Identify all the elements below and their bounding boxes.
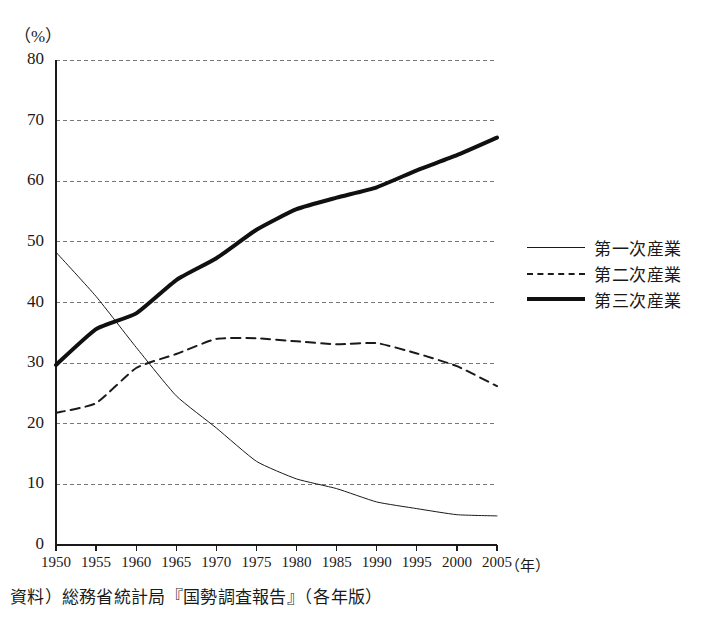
chart-legend: 第一次産業 第二次産業 第三次産業 bbox=[527, 234, 712, 312]
y-axis-tick-label: 40 bbox=[0, 292, 44, 312]
x-axis-tick-label: 1985 bbox=[315, 554, 359, 571]
y-axis-tick-label: 70 bbox=[0, 110, 44, 130]
legend-item-tertiary: 第三次産業 bbox=[527, 286, 712, 312]
series-line-1 bbox=[56, 252, 497, 516]
x-axis-unit-label: （年） bbox=[505, 554, 550, 575]
y-axis-tick-label: 30 bbox=[0, 352, 44, 372]
source-note: 資料）総務省統計局『国勢調査報告』（各年版） bbox=[10, 583, 383, 608]
chart-plot-area bbox=[0, 0, 717, 626]
series-line-3 bbox=[56, 138, 497, 365]
y-axis-tick-label: 10 bbox=[0, 473, 44, 493]
x-axis-tick-label: 1995 bbox=[395, 554, 439, 571]
legend-label-secondary: 第二次産業 bbox=[585, 261, 682, 286]
series-line-2 bbox=[56, 338, 497, 413]
x-axis-tick-label: 1975 bbox=[234, 554, 278, 571]
legend-item-primary: 第一次産業 bbox=[527, 234, 712, 260]
legend-label-primary: 第一次産業 bbox=[585, 235, 682, 260]
y-axis-tick-label: 50 bbox=[0, 231, 44, 251]
x-axis-tick-label: 1970 bbox=[194, 554, 238, 571]
y-axis-tick-label: 0 bbox=[0, 534, 44, 554]
x-axis-tick-label: 1955 bbox=[74, 554, 118, 571]
y-axis-tick-label: 80 bbox=[0, 49, 44, 69]
x-axis-tick-label: 1990 bbox=[355, 554, 399, 571]
legend-line-sample-thin-solid-icon bbox=[527, 241, 585, 253]
x-axis-tick-label: 1950 bbox=[34, 554, 78, 571]
x-axis-tick-label: 2000 bbox=[435, 554, 479, 571]
legend-item-secondary: 第二次産業 bbox=[527, 260, 712, 286]
legend-label-tertiary: 第三次産業 bbox=[585, 287, 682, 312]
legend-line-sample-thick-solid-icon bbox=[527, 293, 585, 305]
x-axis-tick-label: 1965 bbox=[154, 554, 198, 571]
y-axis-tick-label: 60 bbox=[0, 170, 44, 190]
x-axis-tick-label: 1980 bbox=[275, 554, 319, 571]
y-axis-tick-label: 20 bbox=[0, 413, 44, 433]
x-axis-tick-label: 1960 bbox=[114, 554, 158, 571]
chart-figure: （%） 01020304050607080 195019551960196519… bbox=[0, 0, 717, 626]
legend-line-sample-dashed-icon bbox=[527, 267, 585, 279]
